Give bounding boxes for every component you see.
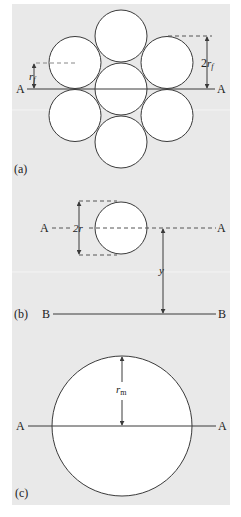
axis-label-a-left: A <box>16 82 25 96</box>
fiber-circle-lower-right <box>141 90 193 142</box>
panel-tag-b: (b) <box>14 307 28 321</box>
axis-label-b-right: B <box>218 307 226 321</box>
fiber-circle-top <box>95 10 147 62</box>
dim-label-2r: 2r <box>73 222 84 234</box>
panel-tag-c: (c) <box>15 486 28 500</box>
dim-label-y: y <box>158 264 164 276</box>
axis-label-c-right: A <box>218 419 227 433</box>
axis-label-a-left-b: A <box>40 221 49 235</box>
axis-label-b-left: B <box>42 307 50 321</box>
figure-canvas: A A rf 2rf (a) A A 2r y B B (b) rm A A (… <box>0 0 241 517</box>
fiber-circle-lower-left <box>49 90 101 142</box>
axis-label-a-right-b: A <box>217 221 226 235</box>
fiber-circle-upper-right <box>141 37 193 89</box>
axis-label-a-right: A <box>217 82 226 96</box>
axis-label-c-left: A <box>16 419 25 433</box>
panel-tag-a: (a) <box>14 162 27 176</box>
fiber-circle-bottom <box>95 116 147 168</box>
